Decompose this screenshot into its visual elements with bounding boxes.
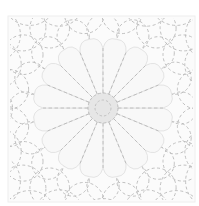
scallop-stitch: [0, 55, 1, 109]
quilt-pattern-canvas: [0, 0, 199, 206]
scallop-stitch: [0, 107, 1, 161]
scallop-stitch: [50, 0, 104, 6]
scallop-stitch: [102, 0, 156, 6]
scallop-stitch: [80, 0, 127, 18]
flower-center: [88, 93, 118, 123]
